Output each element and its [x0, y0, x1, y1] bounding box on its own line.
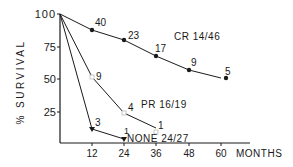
y-tick-50: 50: [44, 73, 56, 85]
survival-chart: 100 75 50 25 12 24 36 48 60 MONTHS % SUR…: [0, 0, 293, 167]
cr-count-48: 9: [191, 57, 197, 68]
none-count-12: 3: [95, 117, 101, 128]
x-tick-36: 36: [150, 148, 162, 159]
pr-count-36: 1: [158, 120, 164, 131]
x-tick-48: 48: [183, 148, 195, 159]
y-tick-100: 100: [35, 8, 56, 20]
cr-legend: CR 14/46: [174, 31, 220, 42]
y-axis-title: % SURVIVAL: [15, 39, 26, 124]
pr-count-24: 4: [128, 102, 134, 113]
y-tick-25: 25: [44, 106, 56, 118]
none-legend: NONE 24/27: [127, 133, 189, 144]
pr-line: [60, 14, 156, 128]
cr-line: [60, 14, 221, 78]
x-tick-60: 60: [215, 148, 227, 159]
cr-count-60: 5: [225, 66, 231, 77]
x-tick-12: 12: [86, 148, 98, 159]
y-tick-75: 75: [44, 41, 56, 53]
x-axis-title: MONTHS: [236, 148, 282, 159]
cr-count-24: 23: [128, 30, 140, 41]
pr-legend: PR 16/19: [141, 99, 187, 110]
cr-count-12: 40: [95, 17, 107, 28]
x-tick-24: 24: [118, 148, 130, 159]
pr-count-12: 9: [96, 71, 102, 82]
cr-count-36: 17: [155, 43, 167, 54]
